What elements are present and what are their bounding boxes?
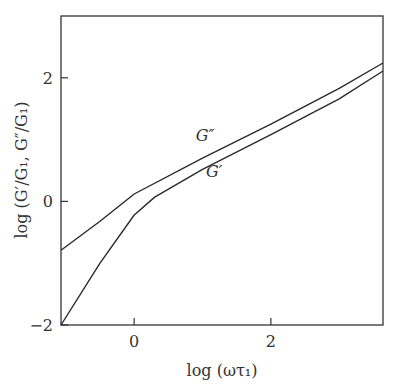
x-tick-label: 0: [129, 332, 139, 351]
x-axis-label: log (ωτ₁): [187, 361, 258, 380]
chart: 02−202 G″G′ log (ωτ₁) log (G′/G₁, G″/G₁): [0, 0, 398, 392]
axis-ticks: [61, 78, 271, 325]
curve-g-double-prime: [61, 63, 383, 250]
label-g-double-prime: G″: [196, 126, 215, 145]
y-tick-label: −2: [29, 316, 53, 335]
y-tick-label: 0: [43, 192, 53, 211]
tick-labels: 02−202: [29, 69, 276, 351]
y-axis-label: log (G′/G₁, G″/G₁): [12, 101, 31, 238]
y-tick-label: 2: [43, 69, 53, 88]
curves: [61, 63, 383, 325]
curve-labels: G″G′: [196, 126, 223, 181]
x-tick-label: 2: [266, 332, 276, 351]
label-g-prime: G′: [206, 162, 223, 181]
curve-g-prime: [61, 71, 383, 325]
